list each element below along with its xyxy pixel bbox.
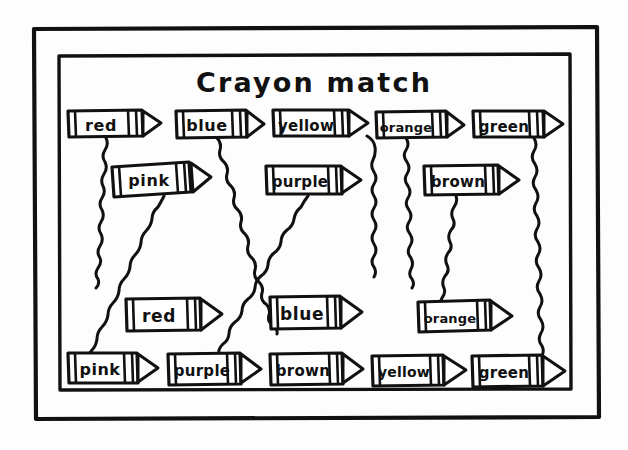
crayon-orange-third[interactable]: orange bbox=[418, 300, 512, 332]
line-red-top[interactable] bbox=[96, 138, 107, 288]
crayon-label: green bbox=[479, 118, 530, 136]
crayon-yellow-top[interactable]: yellow bbox=[273, 110, 368, 136]
crayon-brown-bottom[interactable]: brown bbox=[270, 353, 363, 385]
crayon-label: yellow bbox=[378, 364, 430, 380]
line-green-top[interactable] bbox=[532, 138, 543, 357]
crayon-label: green bbox=[479, 364, 530, 382]
inner-frame bbox=[59, 54, 571, 390]
crayon-purple-bottom[interactable]: purple bbox=[168, 353, 261, 385]
page-title: Crayon match bbox=[196, 67, 432, 98]
crayon-label: red bbox=[142, 306, 176, 326]
crayon-orange-top[interactable]: orange bbox=[376, 111, 464, 138]
crayon-label: purple bbox=[174, 362, 231, 380]
line-orange-top[interactable] bbox=[404, 138, 413, 288]
crayon-green-top[interactable]: green bbox=[473, 111, 563, 137]
crayon-label: red bbox=[85, 116, 117, 135]
crayon-blue-third[interactable]: blue bbox=[270, 296, 362, 329]
line-brown-mid[interactable] bbox=[441, 196, 457, 307]
crayon-label: orange bbox=[380, 120, 433, 135]
crayon-pink-bottom[interactable]: pink bbox=[68, 353, 158, 383]
crayon-label: orange bbox=[424, 311, 477, 326]
crayon-label: blue bbox=[186, 116, 228, 135]
crayon-pink-second[interactable]: pink bbox=[112, 162, 211, 197]
line-pink-mid[interactable] bbox=[88, 196, 164, 360]
crayon-green-bottom[interactable]: green bbox=[472, 355, 565, 387]
crayon-red-third[interactable]: red bbox=[126, 298, 222, 331]
crayon-label: blue bbox=[280, 304, 324, 324]
crayon-blue-top[interactable]: blue bbox=[176, 110, 264, 138]
crayon-purple-second[interactable]: purple bbox=[266, 166, 361, 194]
crayon-brown-second[interactable]: brown bbox=[424, 165, 519, 195]
crayon-label: yellow bbox=[278, 117, 334, 135]
crayon-label: purple bbox=[272, 173, 329, 191]
crayon-label: brown bbox=[431, 173, 485, 191]
crayon-label: pink bbox=[80, 360, 121, 379]
crayon-label: brown bbox=[276, 362, 330, 380]
crayon-label: pink bbox=[128, 171, 169, 190]
worksheet-canvas: Crayon match re bbox=[0, 0, 628, 450]
crayon-match-drawing: Crayon match re bbox=[0, 0, 628, 450]
crayon-yellow-bottom[interactable]: yellow bbox=[372, 355, 466, 386]
crayon-red-top[interactable]: red bbox=[68, 110, 161, 137]
line-yellow-top[interactable] bbox=[367, 136, 376, 277]
